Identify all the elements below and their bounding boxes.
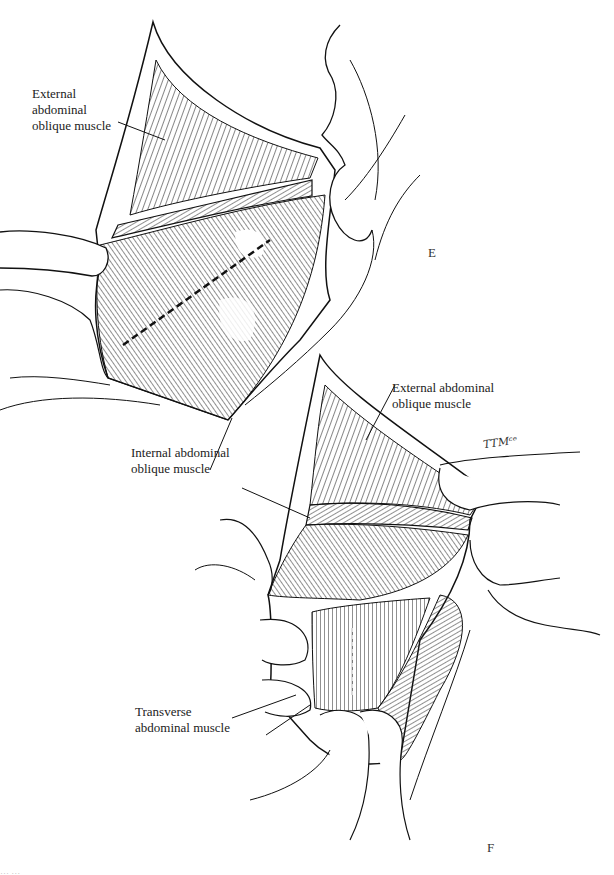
panel-letter-f: F xyxy=(487,840,494,856)
caption-partial: … … xyxy=(0,866,20,875)
panel-f-drawing xyxy=(195,355,600,840)
label-internal-oblique: Internal abdominal oblique muscle xyxy=(131,445,230,477)
label-transverse-abdominal: Transverse abdominal muscle xyxy=(135,704,230,736)
panel-e-drawing xyxy=(0,22,420,420)
label-external-oblique-f: External abdominal oblique muscle xyxy=(392,380,494,412)
label-external-oblique-e: External abdominal oblique muscle xyxy=(32,86,111,134)
panel-letter-e: E xyxy=(428,245,436,261)
